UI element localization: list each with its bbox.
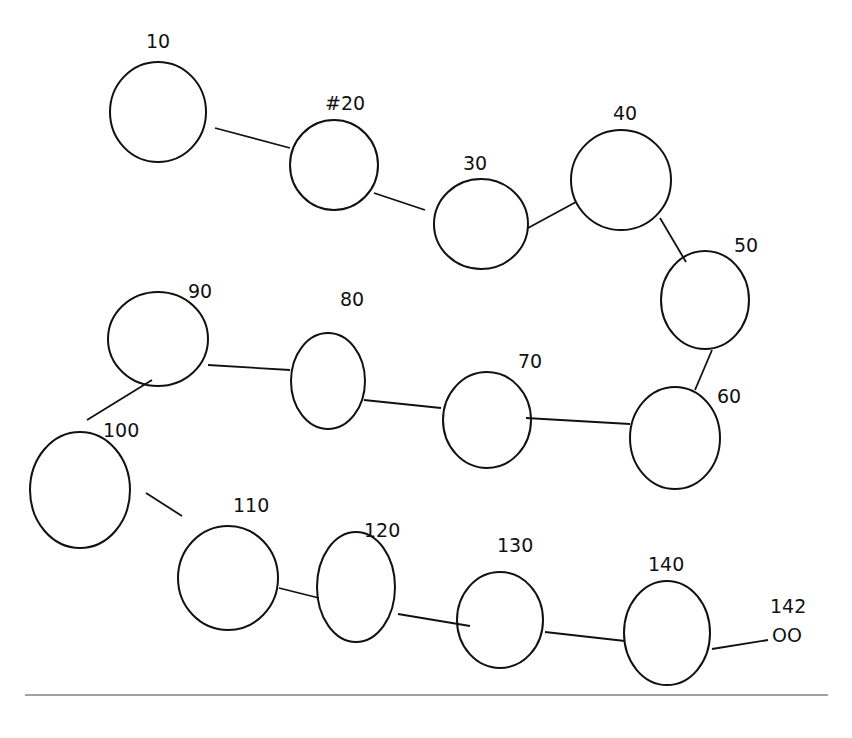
node-label: 142 [770, 595, 806, 617]
node-label: #20 [325, 92, 365, 114]
node-label: 100 [103, 419, 139, 441]
edge-70-to-80 [364, 400, 441, 408]
node-130 [457, 572, 543, 668]
node-20 [290, 120, 378, 210]
node-label: 70 [518, 350, 542, 372]
edge-30-to-40 [528, 202, 576, 228]
edge-120-to-130 [398, 614, 470, 626]
edge-80-to-90 [208, 365, 290, 370]
node-140 [624, 581, 710, 685]
node-label: 80 [340, 288, 364, 310]
edge-60-to-70 [526, 418, 630, 424]
node-label: 30 [463, 152, 487, 174]
node-120 [317, 532, 395, 642]
node-100 [30, 432, 130, 548]
node-70 [443, 372, 531, 468]
edge-90-to-100 [87, 380, 152, 420]
node-10 [110, 62, 206, 162]
null-terminator: OO [772, 624, 802, 646]
node-50 [661, 251, 749, 349]
edge-40-to-50 [660, 218, 686, 262]
node-label: 10 [146, 30, 170, 52]
linked-list-diagram: 10#2030405060708090100110120130140142OO [0, 0, 852, 738]
node-60 [630, 387, 720, 489]
node-label: 50 [734, 234, 758, 256]
node-110 [178, 526, 278, 630]
edge-130-to-140 [545, 632, 625, 641]
edge-10-to-#20 [215, 128, 290, 148]
node-label: 120 [364, 519, 400, 541]
node-30 [434, 179, 528, 269]
edge-50-to-60 [695, 350, 712, 390]
edge-#20-to-30 [374, 193, 425, 210]
node-label: 110 [233, 494, 269, 516]
edge-100-to-110 [146, 493, 182, 516]
node-80 [291, 333, 365, 429]
node-label: 130 [497, 534, 533, 556]
node-label: 60 [717, 385, 741, 407]
edge-110-to-120 [279, 588, 319, 598]
node-label: 90 [188, 280, 212, 302]
edge-140-to-null [712, 640, 768, 649]
node-40 [571, 130, 671, 230]
node-90 [108, 292, 208, 386]
node-label: 40 [613, 102, 637, 124]
node-label: 140 [648, 553, 684, 575]
